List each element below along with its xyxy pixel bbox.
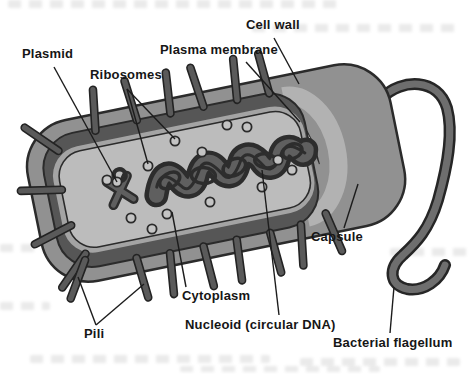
ribosome-dot (287, 165, 296, 174)
leader-line-pili (96, 284, 144, 325)
ribosome-dot (102, 175, 111, 184)
ribosome-dot (197, 147, 206, 156)
ribosome-dot (170, 136, 179, 145)
ribosome-dot (242, 122, 251, 131)
ribosome-dot (205, 197, 214, 206)
ribosome-dot (257, 182, 266, 191)
leader-line-bacterial-flagellum (390, 287, 394, 333)
ribosome-dot (222, 120, 231, 129)
ribosome-dot (273, 155, 282, 164)
pilus-shape (17, 186, 65, 194)
ribosome-dot (147, 224, 156, 233)
ribosome-dot (162, 209, 171, 218)
leader-line-pili (78, 277, 96, 325)
ribosome-dot (126, 213, 135, 222)
bacterial-cell-figure: PlasmidRibosomesPlasma membraneCell wall… (0, 0, 469, 374)
diagram-canvas (0, 0, 469, 374)
